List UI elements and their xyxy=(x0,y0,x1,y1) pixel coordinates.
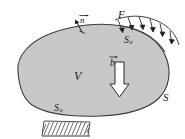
traction-surface-subscript: σ xyxy=(129,38,132,45)
traction-surface-label: Sσ xyxy=(124,35,132,45)
surface-label: S xyxy=(163,92,169,103)
figure-root: V S F b n Sσ Su xyxy=(0,0,185,139)
displacement-surface-label: Su xyxy=(54,103,62,113)
displacement-surface-subscript: u xyxy=(59,106,62,113)
normal-vector-label: n xyxy=(80,16,85,25)
body-force-label: b xyxy=(110,58,115,68)
traction-load-label: F xyxy=(118,9,125,20)
continuum-body-blob xyxy=(18,24,169,116)
fixed-support-hatching xyxy=(42,121,90,136)
continuum-body-diagram xyxy=(0,0,185,139)
volume-label: V xyxy=(74,70,81,82)
